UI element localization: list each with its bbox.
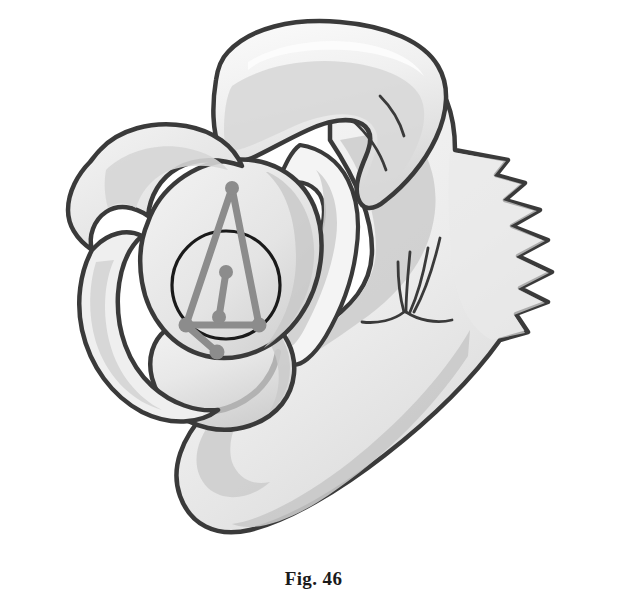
- anatomical-illustration: [0, 0, 627, 560]
- node-right-lower: [252, 318, 267, 333]
- node-left-lower: [179, 318, 194, 333]
- figure-caption: Fig. 46: [0, 568, 627, 590]
- node-bottom-spur: [210, 345, 225, 360]
- node-apex: [225, 181, 239, 195]
- figure-container: Fig. 46: [0, 0, 627, 614]
- node-mid-lower: [212, 310, 226, 324]
- node-mid-center: [219, 265, 233, 279]
